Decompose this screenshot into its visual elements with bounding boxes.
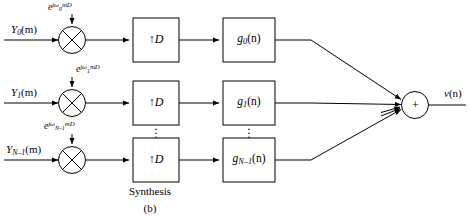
- upsampler-label-channel-n-1: ↑D: [133, 153, 179, 165]
- summing-node-plus: +: [409, 98, 422, 113]
- input-label-channel-0: Y0(m): [11, 24, 37, 37]
- upsampler-label-channel-1: ↑D: [133, 96, 179, 108]
- modulator-exponent-channel-n-1: ejωN–1mD: [44, 121, 75, 132]
- vertical-ellipsis-filter-column: ···: [241, 127, 257, 139]
- vertical-ellipsis-upsampler-column: ···: [148, 127, 164, 139]
- upsampler-label-channel-0: ↑D: [133, 33, 179, 45]
- input-label-channel-n-1: YN–1(m): [6, 144, 41, 157]
- figure-canvas: Y0(m) ejω0mD ↑D g0(n) Y1(m) ejω1mD ↑D g1…: [0, 0, 469, 216]
- input-label-channel-1: Y1(m): [11, 87, 37, 100]
- modulator-exponent-channel-1: ejω1mD: [76, 64, 100, 75]
- link-filter-to-adder-2: [275, 110, 401, 161]
- synthesis-caption: Synthesis: [0, 186, 300, 197]
- subfigure-caption: (b): [0, 203, 300, 214]
- filter-label-channel-0: g0(n): [223, 33, 275, 47]
- link-filter-to-adder-0: [275, 40, 401, 100]
- filter-label-channel-1: g1(n): [223, 96, 275, 110]
- link-filter-to-adder-1: [275, 103, 401, 105]
- filter-label-channel-n-1: gN–1(n): [223, 153, 275, 167]
- output-label: v(n): [444, 88, 462, 99]
- modulator-exponent-channel-0: ejω0mD: [48, 2, 72, 13]
